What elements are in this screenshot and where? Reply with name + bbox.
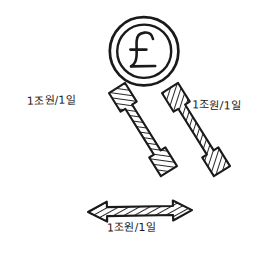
- node-pound-coin[interactable]: [110, 17, 179, 85]
- arrow-bidirectional-eur-usd: [88, 200, 192, 222]
- edge-label-gbp-eur: 1조원/1일: [27, 94, 76, 108]
- edge-eur-usd: [88, 200, 192, 222]
- pound-coin-icon: [110, 17, 179, 85]
- currency-exchange-diagram: £ €: [0, 0, 280, 264]
- edge-label-eur-usd: 1조원/1일: [107, 222, 156, 235]
- edge-label-gbp-usd: 1조원/1일: [192, 99, 241, 113]
